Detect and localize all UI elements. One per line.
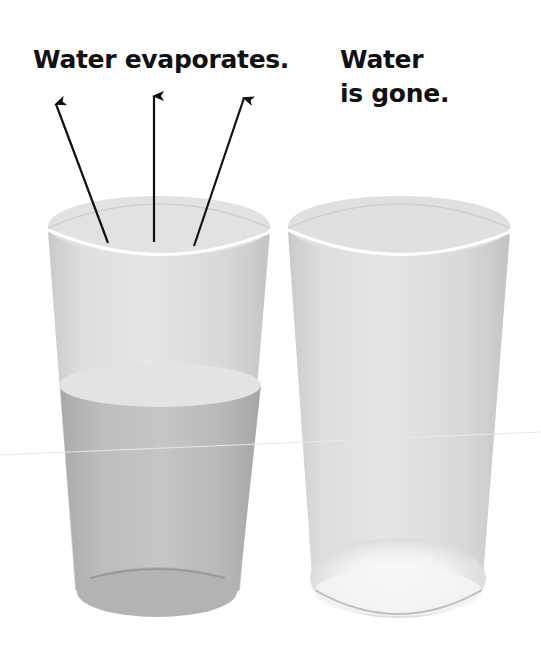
gone-label-line1: Water xyxy=(340,43,449,77)
gone-label-line2: is gone. xyxy=(340,77,449,111)
glass-with-water xyxy=(48,196,270,617)
evaporation-diagram xyxy=(0,0,541,648)
water-surface xyxy=(59,363,261,407)
glass-bottom xyxy=(314,568,482,616)
glass-rim-inner xyxy=(48,196,270,256)
evaporates-label: Water evaporates. xyxy=(33,43,289,77)
empty-glass xyxy=(288,196,510,618)
glass-rim-inner xyxy=(288,196,510,256)
gone-label: Water is gone. xyxy=(340,43,449,111)
